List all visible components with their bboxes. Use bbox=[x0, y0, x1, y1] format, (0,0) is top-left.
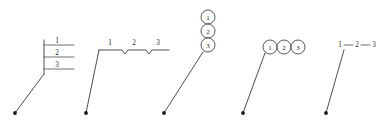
leader-endpoint-dot bbox=[84, 111, 88, 115]
leader-line bbox=[164, 52, 203, 113]
label-text-item-2: 2 bbox=[355, 41, 359, 49]
leader-endpoint-dot bbox=[13, 111, 17, 115]
leader-line bbox=[15, 74, 44, 113]
balloon-label-1: 1 bbox=[268, 44, 272, 52]
notched-baseline bbox=[99, 50, 169, 54]
leader-line bbox=[243, 53, 265, 113]
variant-balloons-horizontal[interactable]: 1 2 3 bbox=[241, 40, 305, 115]
variant-stacked-underlined[interactable]: 1 2 3 bbox=[13, 37, 74, 115]
label-text-item-1: 1 bbox=[338, 41, 342, 49]
label-text-row-2: 2 bbox=[55, 49, 59, 57]
leader-line bbox=[326, 50, 344, 113]
label-text-segment-3: 3 bbox=[156, 39, 160, 47]
annotation-styles-figure: 1 2 3 1 2 3 1 2 3 bbox=[0, 0, 385, 127]
label-text-segment-1: 1 bbox=[108, 39, 112, 47]
variant-balloons-vertical[interactable]: 1 2 3 bbox=[162, 10, 215, 115]
label-text-segment-2: 2 bbox=[132, 39, 136, 47]
balloon-label-2: 2 bbox=[206, 28, 210, 36]
variant-notched-horizontal[interactable]: 1 2 3 bbox=[84, 39, 169, 115]
balloon-label-1: 1 bbox=[206, 14, 210, 22]
balloon-label-3: 3 bbox=[296, 44, 300, 52]
label-text-item-3: 3 bbox=[372, 41, 376, 49]
drawing-canvas: 1 2 3 1 2 3 1 2 3 bbox=[0, 0, 385, 127]
balloon-label-3: 3 bbox=[206, 42, 210, 50]
balloon-label-2: 2 bbox=[282, 44, 286, 52]
label-text-row-1: 1 bbox=[55, 37, 59, 45]
label-text-row-3: 3 bbox=[55, 61, 59, 69]
leader-endpoint-dot bbox=[324, 111, 328, 115]
leader-endpoint-dot bbox=[162, 111, 166, 115]
variant-dash-separated[interactable]: 1 2 3 bbox=[324, 41, 376, 115]
leader-endpoint-dot bbox=[241, 111, 245, 115]
leader-line bbox=[86, 50, 99, 113]
